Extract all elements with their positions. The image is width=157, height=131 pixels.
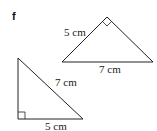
part-label: f <box>12 10 16 22</box>
upper-hypotenuse-label: 7 cm <box>99 63 121 75</box>
lower-leg-label: 5 cm <box>45 120 67 131</box>
lower-hypotenuse-label: 7 cm <box>55 76 77 88</box>
lower-triangle: 7 cm 5 cm <box>18 58 83 131</box>
right-angle-marker <box>18 112 25 119</box>
upper-triangle: 5 cm 7 cm <box>62 17 153 75</box>
right-angle-marker <box>103 22 112 27</box>
upper-leg-label: 5 cm <box>64 26 86 38</box>
lower-triangle-shape <box>18 58 83 119</box>
upper-triangle-shape <box>62 17 153 62</box>
diagram-canvas: f 5 cm 7 cm 7 cm 5 cm <box>0 0 157 131</box>
